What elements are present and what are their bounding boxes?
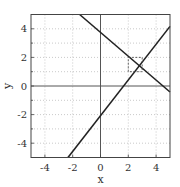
line-chart: -4-2024 -4-2024 x y xyxy=(0,0,180,187)
x-tick-label: 4 xyxy=(153,162,159,173)
x-tick-label: -4 xyxy=(40,162,50,173)
y-tick-label: -4 xyxy=(17,138,27,149)
x-tick-label: 2 xyxy=(125,162,131,173)
x-tick-label: -2 xyxy=(68,162,78,173)
y-tick-label: 2 xyxy=(21,52,27,63)
line-2-line xyxy=(68,26,170,157)
x-tick-label: 0 xyxy=(97,162,103,173)
y-tick-label: 4 xyxy=(21,23,27,34)
x-tick-labels: -4-2024 xyxy=(40,162,159,173)
x-axis-label: x xyxy=(97,173,104,186)
y-axis-label: y xyxy=(1,82,14,90)
y-tick-label: 0 xyxy=(21,81,27,92)
y-tick-labels: -4-2024 xyxy=(17,23,27,148)
y-tick-label: -2 xyxy=(17,109,27,120)
zero-reference-lines xyxy=(31,15,170,158)
line-1-line xyxy=(80,15,170,93)
axis-ticks xyxy=(31,29,156,158)
